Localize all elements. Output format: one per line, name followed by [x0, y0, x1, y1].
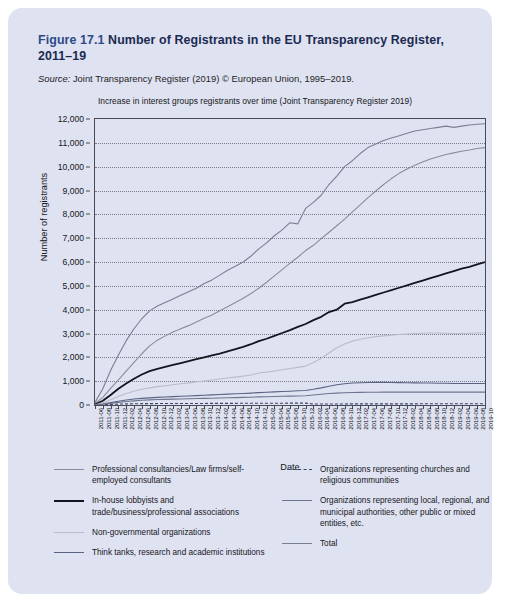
x-tick-label: 2019-10: [487, 408, 494, 430]
x-tick-label: 2019-04: [464, 408, 471, 430]
series-line: [95, 403, 485, 405]
y-tick-mark: [86, 285, 90, 286]
y-tick-mark: [86, 357, 90, 358]
y-tick-label: 9,000: [62, 186, 84, 196]
figure-source: Source: Joint Transparency Register (201…: [38, 72, 478, 85]
x-tick-label: 2015-10: [300, 408, 307, 430]
y-tick-mark: [86, 166, 90, 167]
legend-item: Organizations representing local, region…: [282, 495, 494, 529]
y-tick-mark: [86, 119, 90, 120]
y-tick-label: 11,000: [58, 138, 84, 148]
legend-label: Total: [320, 538, 494, 549]
figure-number: Figure 17.1: [38, 33, 105, 47]
legend-swatch-icon: [54, 532, 84, 533]
x-tick-label: 2013-10: [206, 408, 213, 430]
x-tick-label: 2012-04: [136, 408, 143, 430]
x-tick-label: 2018-10: [440, 408, 447, 430]
x-tick-label: 2016-10: [347, 408, 354, 430]
y-tick-label: 8,000: [62, 209, 84, 219]
legend-swatch-icon: [282, 500, 312, 501]
x-tick-label: 2015-04: [277, 408, 284, 430]
x-tick-label: 2015-02: [269, 408, 276, 430]
legend-swatch-icon: [282, 469, 312, 470]
x-tick-label: 2014-10: [253, 408, 260, 430]
figure-title: Figure 17.1 Number of Registrants in the…: [38, 32, 468, 64]
legend-label: Organizations representing local, region…: [320, 495, 494, 529]
legend-swatch-icon: [54, 469, 84, 470]
x-tick-label: 2019-02: [456, 408, 463, 430]
x-tick-label: 2017-06: [378, 408, 385, 430]
x-tick-label: 2017-02: [362, 408, 369, 430]
x-tick-label: 2015-12: [308, 408, 315, 430]
x-tick-label: 2018-04: [417, 408, 424, 430]
legend-swatch-icon: [54, 500, 84, 502]
y-tick-label: 10,000: [58, 162, 84, 172]
legend-label: In-house lobbyists and trade/business/pr…: [92, 495, 274, 517]
legend-item: Think tanks, research and academic insti…: [54, 547, 274, 558]
x-tick-label: 2016-04: [323, 408, 330, 430]
legend-swatch-icon: [282, 543, 312, 544]
source-text: Joint Transparency Register (2019) © Eur…: [70, 73, 354, 84]
x-tick-label: 2012-10: [160, 408, 167, 430]
legend-item: In-house lobbyists and trade/business/pr…: [54, 495, 274, 517]
y-tick-mark: [86, 190, 90, 191]
plot-area: [94, 118, 486, 406]
legend-label: Professional consultancies/Law firms/sel…: [92, 464, 274, 486]
x-tick-label: 2018-06: [425, 408, 432, 430]
y-tick-mark: [86, 214, 90, 215]
x-tick-label: 2017-04: [370, 408, 377, 430]
x-tick-label: 2018-12: [448, 408, 455, 430]
x-tick-label: 2014-12: [261, 408, 268, 430]
y-tick-mark: [86, 381, 90, 382]
y-tick-label: 1,000: [62, 376, 84, 386]
x-tick-label: 2017-10: [394, 408, 401, 430]
y-tick-label: 6,000: [62, 257, 84, 267]
legend-column-left: Professional consultancies/Law firms/sel…: [54, 464, 274, 567]
x-tick-label: 2016-12: [355, 408, 362, 430]
y-tick-mark: [86, 309, 90, 310]
x-tick-label: 2011-08: [105, 408, 112, 429]
x-axis-ticks: 2011-062011-082011-102011-122012-022012-…: [94, 408, 486, 464]
chart-title: Increase in interest groups registrants …: [20, 96, 490, 106]
y-tick-mark: [86, 333, 90, 334]
legend-item: Non-governmental organizations: [54, 527, 274, 538]
series-line: [95, 148, 485, 404]
legend-item: Professional consultancies/Law firms/sel…: [54, 464, 274, 486]
y-tick-mark: [86, 405, 90, 406]
legend-item: Total: [282, 538, 494, 549]
x-tick-label: 2014-06: [238, 408, 245, 430]
source-prefix: Source:: [38, 73, 70, 84]
y-axis-ticks: 01,0002,0003,0004,0005,0006,0007,0008,00…: [20, 118, 90, 406]
y-tick-mark: [86, 262, 90, 263]
x-tick-label: 2011-12: [121, 408, 128, 429]
x-tick-label: 2014-02: [222, 408, 229, 430]
x-tick-label: 2017-08: [386, 408, 393, 430]
x-tick-label: 2017-12: [401, 408, 408, 430]
y-tick-label: 4,000: [62, 305, 84, 315]
x-tick-label: 2016-02: [316, 408, 323, 430]
legend-label: Organizations representing churches and …: [320, 464, 494, 486]
y-tick-label: 0: [79, 400, 84, 410]
x-tick-label: 2018-08: [433, 408, 440, 430]
y-tick-mark: [86, 238, 90, 239]
x-tick-label: 2012-06: [144, 408, 151, 430]
x-tick-label: 2019-08: [479, 408, 486, 430]
x-tick-label: 2013-02: [175, 408, 182, 430]
y-tick-label: 12,000: [58, 114, 84, 124]
figure-panel: Figure 17.1 Number of Registrants in the…: [8, 8, 492, 594]
y-tick-label: 7,000: [62, 233, 84, 243]
x-tick-label: 2011-06: [97, 408, 104, 429]
legend-label: Non-governmental organizations: [92, 527, 274, 538]
legend-column-right: Organizations representing churches and …: [282, 464, 494, 558]
series-lines: [95, 119, 485, 405]
x-tick-label: 2012-02: [128, 408, 135, 430]
y-tick-label: 3,000: [62, 329, 84, 339]
x-tick-label: 2013-06: [191, 408, 198, 430]
y-tick-label: 5,000: [62, 281, 84, 291]
x-tick-label: 2014-04: [230, 408, 237, 430]
x-tick-label: 2012-08: [152, 408, 159, 430]
x-tick-label: 2019-06: [472, 408, 479, 430]
y-tick-mark: [86, 142, 90, 143]
x-tick-label: 2013-04: [183, 408, 190, 430]
x-tick-label: 2013-12: [214, 408, 221, 430]
